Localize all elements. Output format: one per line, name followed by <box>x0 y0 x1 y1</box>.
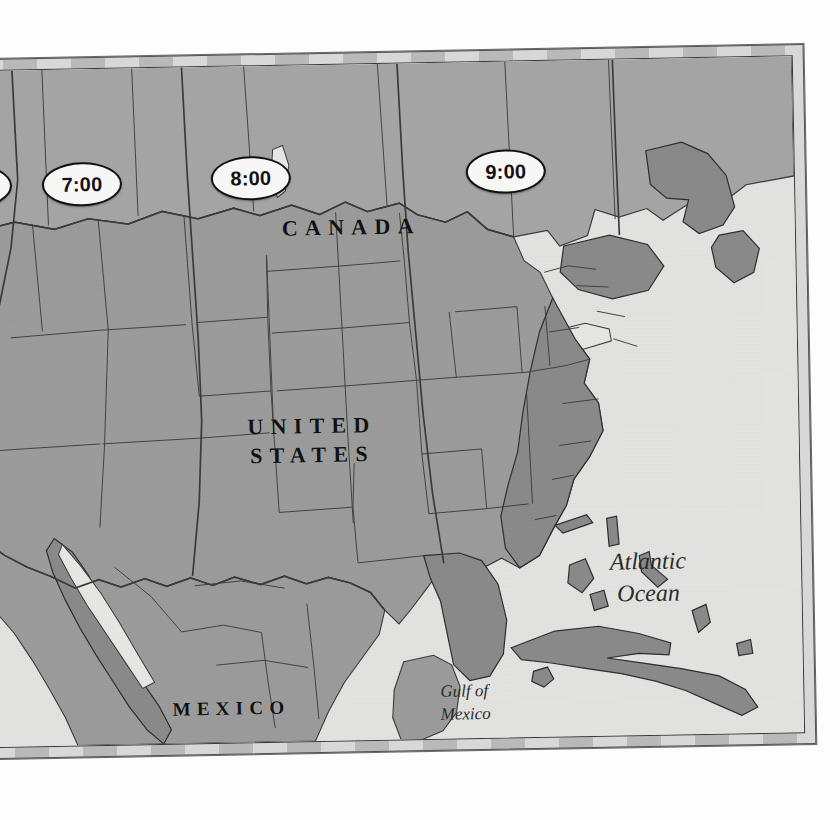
label-gulf-of-mexico: Gulf of Mexico <box>440 679 491 726</box>
label-united-states: UNITED STATES <box>247 410 377 471</box>
label-atlantic-ocean: Atlantic Ocean <box>610 545 687 610</box>
label-atlantic-line1: Atlantic <box>610 545 687 578</box>
label-mexico: MEXICO <box>172 697 290 721</box>
page-background: .land { fill:#9d9d9d; stroke:#3a3a3a; st… <box>0 0 840 820</box>
island-bahamas-2 <box>607 516 620 546</box>
label-united-states-line2: STATES <box>248 439 378 471</box>
label-gulf-line1: Gulf of <box>440 679 490 703</box>
map-plate: .land { fill:#9d9d9d; stroke:#3a3a3a; st… <box>0 44 816 760</box>
label-atlantic-line2: Ocean <box>610 577 687 610</box>
label-united-states-line1: UNITED <box>247 410 377 442</box>
map-canvas: .land { fill:#9d9d9d; stroke:#3a3a3a; st… <box>0 55 805 748</box>
label-canada: CANADA <box>282 213 421 242</box>
label-gulf-line2: Mexico <box>441 702 491 726</box>
map-graphic: .land { fill:#9d9d9d; stroke:#3a3a3a; st… <box>0 56 804 747</box>
